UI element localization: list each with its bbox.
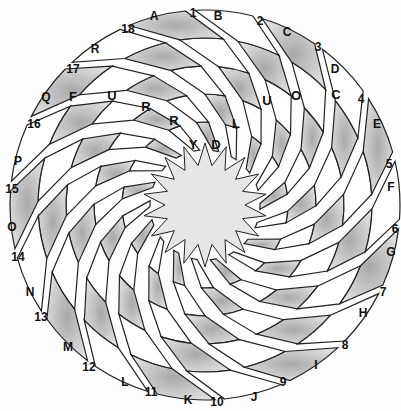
grid-cell[interactable] [173,282,205,316]
entry-letter-label: J [251,390,258,404]
entry-letter-label: L [121,375,128,389]
puzzle-grid: ABCDEFGHIJKLMNOPQR1234567891011121314151… [0,0,401,411]
entry-letter-label: R [91,42,100,56]
filled-letter: F [69,89,77,104]
entry-number-label: 7 [380,285,387,299]
entry-letter-label: K [184,393,193,407]
entry-letter-label: M [63,340,73,354]
entry-number-label: 14 [11,250,25,264]
filled-letter: U [262,93,271,108]
grid-cell[interactable] [96,160,135,185]
entry-letter-label: O [7,220,16,234]
grid-cell[interactable] [201,288,243,315]
swirl-puzzle-board: ABCDEFGHIJKLMNOPQR1234567891011121314151… [0,0,401,411]
grid-cell[interactable] [244,239,280,250]
grid-cell[interactable] [71,133,120,168]
entry-letter-label: B [214,9,223,23]
grid-cell[interactable] [290,242,339,277]
entry-number-label: 10 [210,395,224,409]
entry-letter-label: Q [41,90,50,104]
grid-cell[interactable] [129,160,165,171]
entry-number-label: 17 [66,62,80,76]
filled-letter: R [169,113,179,128]
entry-number-label: 6 [392,222,399,236]
entry-number-label: 5 [386,157,393,171]
filled-letter: O [291,88,301,103]
entry-number-label: 11 [145,385,158,399]
filled-letter: U [107,88,116,103]
entry-number-label: 4 [358,92,365,106]
filled-letter: Y [189,137,198,152]
grid-cell[interactable] [275,224,314,249]
filled-letter: D [211,137,220,152]
grid-cell[interactable] [173,250,184,285]
entry-letter-label: C [283,25,292,39]
entry-letter-label: D [331,62,340,76]
entry-letter-label: H [359,306,368,320]
entry-letter-label: A [150,9,159,23]
entry-letter-label: P [14,154,22,168]
entry-number-label: 15 [5,182,19,196]
entry-number-label: 13 [34,310,48,324]
filled-letter: C [331,87,341,102]
entry-number-label: 18 [121,22,135,36]
entry-number-label: 8 [342,338,349,352]
entry-number-label: 12 [82,360,96,374]
entry-letter-label: G [386,245,395,259]
entry-number-label: 3 [315,40,322,54]
entry-number-label: 16 [27,117,41,131]
entry-number-label: 1 [190,6,197,20]
grid-cell[interactable] [191,258,213,288]
entry-letter-label: F [387,180,394,194]
entry-number-label: 2 [257,14,264,28]
entry-letter-label: E [373,117,381,131]
filled-letter: L [232,116,240,131]
entry-number-label: 9 [280,375,287,389]
filled-letter: R [141,99,151,114]
entry-letter-label: N [26,285,35,299]
entry-letter-label: I [314,358,317,372]
